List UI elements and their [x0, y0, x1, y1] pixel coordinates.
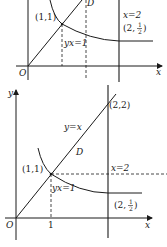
diagram-canvas: (1,1) yx=1 D x=2 (2, 1 2 ) O x y (2,2) y… — [0, 0, 167, 247]
bottom-label-11: (1,1) — [22, 164, 43, 174]
top-label-vline: x=2 — [123, 10, 142, 20]
svg-text:1: 1 — [138, 21, 142, 28]
svg-text:): ) — [143, 23, 147, 33]
bottom-line-y-equals-x — [16, 94, 116, 218]
bottom-point-11 — [50, 173, 53, 176]
bottom-figure: y (2,2) y=x D (1,1) x=2 yx=1 (2, 1 2 ) O… — [5, 85, 167, 240]
svg-text:(2,: (2, — [123, 23, 135, 33]
bottom-label-x-axis: x — [145, 220, 150, 230]
bottom-label-region: D — [75, 147, 83, 157]
top-label-11: (1,1) — [35, 12, 56, 22]
svg-text:2: 2 — [129, 205, 133, 212]
top-label-x-axis: x — [156, 67, 161, 77]
bottom-label-curve: yx=1 — [51, 183, 75, 193]
top-line-y-equals-x — [28, 0, 82, 66]
svg-text:2: 2 — [138, 28, 142, 35]
svg-text:1: 1 — [129, 198, 133, 205]
bottom-label-line: y=x — [63, 122, 82, 132]
bottom-label-y-axis: y — [7, 88, 14, 98]
top-figure: (1,1) yx=1 D x=2 (2, 1 2 ) O x — [16, 0, 162, 82]
top-label-point-2half: (2, 1 2 ) — [123, 21, 147, 35]
svg-text:): ) — [134, 200, 138, 210]
bottom-label-vline: x=2 — [111, 163, 130, 173]
svg-text:(2,: (2, — [114, 200, 126, 210]
top-label-origin: O — [19, 68, 27, 78]
bottom-label-origin: O — [6, 220, 14, 230]
bottom-label-tick-1: 1 — [48, 220, 54, 230]
bottom-label-22: (2,2) — [109, 100, 130, 110]
top-point-11 — [61, 23, 63, 25]
bottom-label-point-2half: (2, 1 2 ) — [114, 198, 138, 212]
top-label-region: D — [86, 0, 94, 8]
top-label-curve: yx=1 — [63, 38, 87, 48]
